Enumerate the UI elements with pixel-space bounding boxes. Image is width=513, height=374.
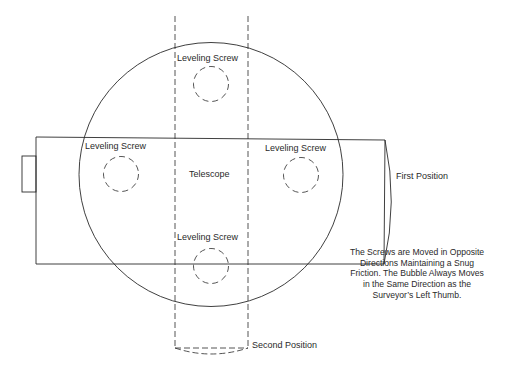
note-line: The Screws are Moved in Opposite bbox=[327, 247, 507, 258]
label-leveling-screw-top: Leveling Screw bbox=[177, 53, 238, 64]
label-leveling-screw-bottom: Leveling Screw bbox=[177, 232, 238, 243]
label-leveling-screw-right: Leveling Screw bbox=[265, 143, 326, 154]
leveling-screws-diagram: Leveling Screw Leveling Screw Leveling S… bbox=[0, 0, 513, 374]
telescope-first-position bbox=[36, 137, 385, 264]
note-line: Friction. The Bubble Always Moves bbox=[327, 268, 507, 279]
note-line: Surveyor’s Left Thumb. bbox=[327, 290, 507, 301]
leveling-screw-left bbox=[104, 157, 139, 192]
label-leveling-screw-left: Leveling Screw bbox=[85, 141, 146, 152]
label-second-position: Second Position bbox=[252, 340, 317, 351]
label-first-position: First Position bbox=[396, 171, 448, 182]
diagram-drawing bbox=[0, 0, 513, 374]
note-line: in the Same Direction as the bbox=[327, 279, 507, 290]
leveling-screw-bottom bbox=[194, 249, 229, 284]
second-position-lens-cap bbox=[175, 348, 248, 354]
eyepiece bbox=[22, 156, 36, 192]
label-telescope: Telescope bbox=[189, 169, 230, 180]
leveling-screw-top bbox=[194, 67, 229, 102]
leveling-screw-right bbox=[284, 158, 319, 193]
note-line: Directions Maintaining a Snug bbox=[327, 258, 507, 269]
instruction-note: The Screws are Moved in Opposite Directi… bbox=[327, 247, 507, 301]
